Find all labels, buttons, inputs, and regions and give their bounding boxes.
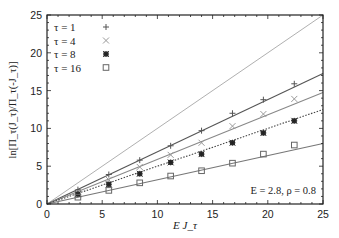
- y-tick-label: 15: [30, 85, 42, 97]
- data-markers: [75, 81, 297, 200]
- marker-star-icon: [103, 51, 109, 57]
- y-tick-labels: 0510152025: [30, 9, 42, 210]
- legend-item: τ = 4: [54, 35, 109, 47]
- marker-plus-icon: [106, 172, 112, 178]
- legend-label: τ = 16: [54, 62, 82, 74]
- marker-cross-icon: [229, 123, 235, 129]
- y-tick-label: 20: [30, 47, 42, 59]
- marker-plus-icon: [260, 97, 266, 103]
- x-tick-label: 25: [317, 208, 329, 220]
- y-axis-label: ln[Π_τ(J_τ)/Π_τ(-J_τ)]: [7, 62, 19, 159]
- legend-label: τ = 1: [54, 21, 76, 33]
- marker-plus-icon: [103, 24, 109, 30]
- marker-plus-icon: [137, 157, 143, 163]
- parameter-annotation: E = 2.8, ρ = 0.8: [251, 185, 317, 196]
- legend-item: τ = 1: [54, 21, 109, 33]
- y-tick-label: 10: [30, 122, 42, 134]
- legend-item: τ = 16: [54, 62, 109, 74]
- x-axis-label: E J_τ: [172, 219, 198, 231]
- marker-cross-icon: [103, 38, 109, 44]
- x-tick-label: 20: [262, 208, 274, 220]
- marker-star-icon: [199, 151, 205, 157]
- marker-plus-icon: [168, 143, 174, 149]
- marker-star-icon: [137, 171, 143, 177]
- x-tick-label: 10: [152, 208, 164, 220]
- x-tick-label: 15: [207, 208, 219, 220]
- marker-cross-icon: [291, 96, 297, 102]
- legend: τ = 1τ = 4τ = 8τ = 16: [54, 21, 109, 74]
- legend-label: τ = 4: [54, 35, 76, 47]
- y-tick-label: 5: [36, 160, 42, 172]
- y-tick-label: 25: [30, 9, 42, 21]
- x-tick-label: 5: [99, 208, 105, 220]
- chart: 0510152025 0510152025 E J_τ ln[Π_τ(J_τ)/…: [0, 0, 339, 238]
- legend-label: τ = 8: [54, 48, 76, 60]
- marker-square-icon: [103, 65, 109, 71]
- marker-star-icon: [260, 130, 266, 136]
- y-tick-label: 0: [36, 198, 42, 210]
- legend-item: τ = 8: [54, 48, 109, 60]
- marker-plus-icon: [199, 128, 205, 134]
- marker-star-icon: [106, 181, 112, 187]
- marker-star-icon: [168, 159, 174, 165]
- marker-star-icon: [229, 140, 235, 146]
- marker-square-icon: [291, 142, 297, 148]
- x-tick-label: 0: [44, 208, 50, 220]
- marker-star-icon: [291, 118, 297, 124]
